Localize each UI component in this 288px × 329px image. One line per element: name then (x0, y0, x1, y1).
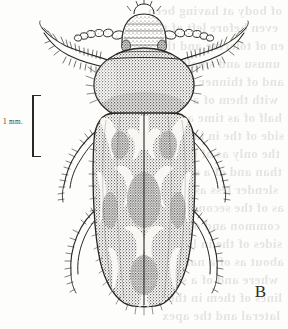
scale-bar-tick-bottom (32, 156, 41, 157)
figure-page: of body at having beeneven before left o… (0, 0, 288, 329)
elytra (89, 112, 199, 315)
antenna-right (163, 28, 214, 41)
figure-letter: B (255, 282, 266, 302)
scale-bar-label: 1 mm. (3, 118, 23, 126)
scale-bar (27, 95, 41, 157)
scale-bar-tick-top (32, 95, 41, 96)
scale-bar-line (32, 95, 34, 157)
antenna-left (74, 28, 125, 41)
beetle-illustration (0, 0, 288, 329)
mouthparts (127, 0, 161, 14)
foreleg-left (40, 21, 110, 74)
foreleg-right (178, 21, 248, 74)
